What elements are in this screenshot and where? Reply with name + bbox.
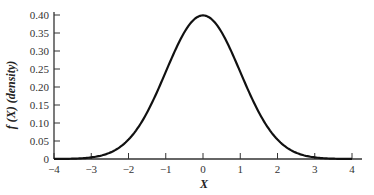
y-axis: 00.050.100.150.200.250.300.350.40 xyxy=(30,9,60,165)
y-tick-label: 0.15 xyxy=(30,99,50,111)
y-axis-label: f (X) (density) xyxy=(4,61,18,130)
y-tick-label: 0.25 xyxy=(30,63,50,75)
x-tick-label: 3 xyxy=(312,163,318,175)
y-tick-label: 0.30 xyxy=(30,45,50,57)
x-tick-label: −2 xyxy=(123,163,135,175)
x-tick-label: −4 xyxy=(48,163,60,175)
x-tick-label: 4 xyxy=(349,163,355,175)
x-tick-label: 1 xyxy=(238,163,244,175)
y-tick-label: 0.10 xyxy=(30,117,50,129)
x-tick-label: 0 xyxy=(200,163,206,175)
y-tick-label: 0.40 xyxy=(30,9,50,21)
y-tick-label: 0.05 xyxy=(30,135,50,147)
density-chart: 00.050.100.150.200.250.300.350.40 −4−3−2… xyxy=(0,0,374,195)
y-tick-label: 0.20 xyxy=(30,81,50,93)
y-tick-label: 0.35 xyxy=(30,27,50,39)
x-tick-label: −1 xyxy=(160,163,172,175)
density-curve xyxy=(54,15,352,159)
x-axis-label: X xyxy=(199,177,209,191)
x-tick-label: −3 xyxy=(85,163,97,175)
x-tick-label: 2 xyxy=(275,163,281,175)
